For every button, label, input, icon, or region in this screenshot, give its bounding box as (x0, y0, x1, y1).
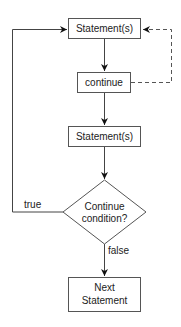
node-condition: Continue condition? (63, 180, 146, 244)
flowchart: Statement(s) continue Statement(s) Conti… (0, 0, 181, 327)
statements-1-label: Statement(s) (76, 23, 133, 34)
edge-label-true: true (24, 199, 42, 210)
condition-label-line1: Continue (84, 201, 124, 212)
next-statement-label-line2: Statement (82, 295, 128, 306)
condition-diamond (63, 180, 146, 244)
node-statements-2: Statement(s) (69, 127, 141, 147)
node-statements-1: Statement(s) (69, 19, 141, 39)
statements-2-label: Statement(s) (76, 131, 133, 142)
node-next-statement: Next Statement (69, 278, 141, 312)
continue-label: continue (85, 77, 123, 88)
condition-label-line2: condition? (82, 213, 128, 224)
edge-label-false: false (108, 245, 130, 256)
next-statement-label-line1: Next (94, 282, 115, 293)
edges (13, 30, 172, 277)
edge-condition-true-loop (13, 30, 68, 213)
node-continue: continue (78, 73, 131, 93)
